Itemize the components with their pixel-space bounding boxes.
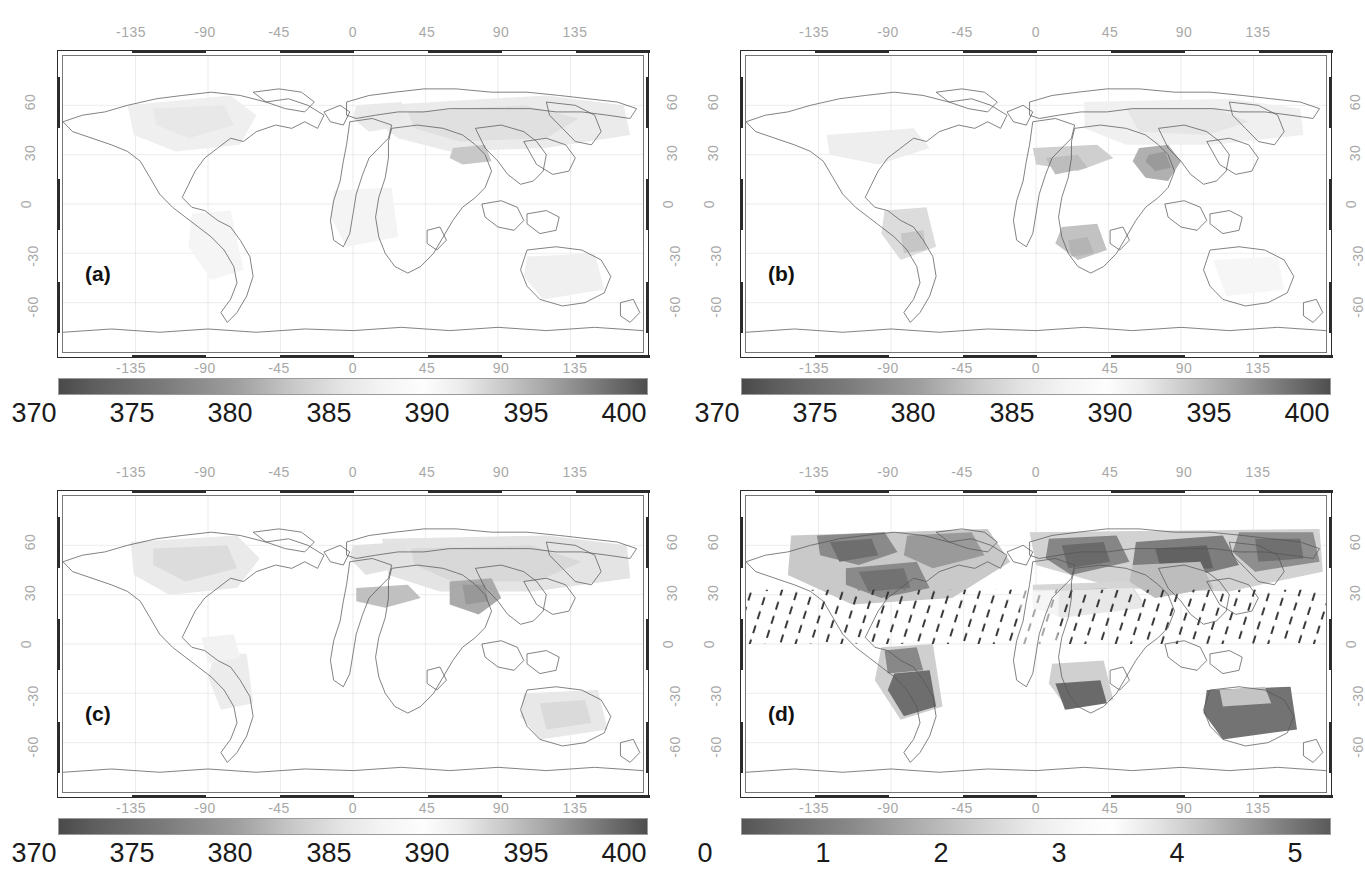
lon-tick-top: -45 (268, 24, 290, 40)
lat-tick-left: 0 (18, 640, 34, 648)
lon-tick-top: 135 (563, 24, 588, 40)
map-frame (57, 50, 649, 358)
lon-tick-bottom: -45 (951, 360, 973, 376)
cbar-tick: 370 (11, 398, 56, 429)
frame-seg (815, 355, 889, 358)
world-map-svg (746, 496, 1326, 792)
frame-seg (57, 282, 60, 333)
lon-tick-top: 45 (1102, 464, 1119, 480)
map-inner (745, 495, 1327, 793)
cbar-tick: 370 (694, 398, 739, 429)
lat-tick-right: -60 (667, 736, 683, 758)
map-b (740, 50, 1332, 358)
map-c (57, 490, 649, 798)
lon-tick-bottom: 135 (563, 360, 588, 376)
lon-tick-top: 0 (1032, 24, 1040, 40)
lon-tick-top: 90 (1176, 464, 1193, 480)
frame-seg (815, 795, 889, 798)
lat-tick-left: 60 (22, 534, 38, 551)
lon-tick-bottom: 135 (1246, 360, 1271, 376)
lon-tick-bottom: -135 (116, 360, 146, 376)
lon-tick-bottom: 90 (1176, 800, 1193, 816)
lon-tick-bottom: -45 (268, 360, 290, 376)
lat-tick-left: 0 (701, 200, 717, 208)
map-a (57, 50, 649, 358)
frame-seg (740, 517, 743, 568)
frame-seg (57, 179, 60, 230)
lon-tick-top: 90 (493, 464, 510, 480)
lat-tick-left: 0 (701, 640, 717, 648)
frame-seg (740, 619, 743, 670)
lon-tick-top: -90 (877, 24, 899, 40)
lon-tick-top: -135 (799, 24, 829, 40)
lat-tick-left: -30 (25, 685, 41, 707)
colorbar-ticks-d: 0 1 2 3 4 5 (683, 838, 1365, 872)
colorbar-ticks-c: 370 375 380 385 390 395 400 (0, 838, 682, 872)
lat-tick-right: 60 (664, 94, 680, 111)
lat-tick-right: -30 (667, 245, 683, 267)
cbar-tick: 385 (989, 398, 1034, 429)
lon-tick-top: 0 (1032, 464, 1040, 480)
frame-seg (963, 490, 1037, 493)
world-map-svg (746, 56, 1326, 352)
frame-seg (1111, 795, 1185, 798)
lon-tick-bottom: -45 (268, 800, 290, 816)
lat-tick-right: 0 (1343, 200, 1359, 208)
frame-seg (1329, 722, 1332, 773)
cbar-tick: 375 (109, 838, 154, 869)
lon-tick-bottom: -135 (799, 800, 829, 816)
cbar-tick: 380 (890, 398, 935, 429)
cbar-tick: 390 (404, 838, 449, 869)
lat-tick-left: 60 (705, 534, 721, 551)
cbar-tick: 385 (306, 838, 351, 869)
lon-tick-top: 135 (563, 464, 588, 480)
cbar-tick: 385 (306, 398, 351, 429)
lon-tick-bottom: 90 (1176, 360, 1193, 376)
frame-seg (1259, 490, 1333, 493)
panel-tag-c: (c) (85, 702, 111, 726)
cbar-tick: 395 (503, 398, 548, 429)
map-d (740, 490, 1332, 798)
lat-tick-right: 60 (1347, 534, 1363, 551)
world-map-svg (63, 56, 643, 352)
lon-tick-bottom: -90 (877, 360, 899, 376)
lon-tick-bottom: 45 (1102, 800, 1119, 816)
lat-tick-left: -30 (708, 685, 724, 707)
frame-seg (740, 179, 743, 230)
frame-seg (57, 77, 60, 128)
data-overlay-b (827, 99, 1304, 296)
lon-tick-bottom: 45 (419, 800, 436, 816)
lon-tick-bottom: 0 (349, 360, 357, 376)
hatching-band (746, 590, 1326, 644)
frame-seg (280, 355, 354, 358)
lat-tick-left: 30 (705, 145, 721, 162)
lat-tick-right: -60 (667, 296, 683, 318)
frame-seg (428, 795, 502, 798)
lat-tick-left: -30 (708, 245, 724, 267)
cbar-tick: 0 (697, 838, 712, 869)
frame-seg (963, 795, 1037, 798)
lon-tick-top: 45 (419, 464, 436, 480)
frame-seg (646, 722, 649, 773)
colorbar-ticks-b: 370 375 380 385 390 395 400 (683, 398, 1365, 432)
frame-seg (57, 619, 60, 670)
lat-tick-right: 30 (1347, 145, 1363, 162)
frame-seg (428, 355, 502, 358)
cbar-tick: 380 (207, 398, 252, 429)
frame-seg (280, 795, 354, 798)
lat-tick-right: -60 (1350, 296, 1365, 318)
frame-seg (1329, 517, 1332, 568)
frame-seg (576, 50, 650, 53)
frame-seg (646, 517, 649, 568)
lat-tick-left: -60 (708, 736, 724, 758)
frame-seg (132, 490, 206, 493)
map-frame (740, 490, 1332, 798)
frame-seg (576, 490, 650, 493)
lon-tick-top: 45 (419, 24, 436, 40)
lon-tick-top: 0 (349, 464, 357, 480)
frame-seg (740, 722, 743, 773)
cbar-tick: 395 (503, 838, 548, 869)
frame-seg (1111, 355, 1185, 358)
lon-tick-top: 135 (1246, 464, 1271, 480)
frame-seg (815, 490, 889, 493)
